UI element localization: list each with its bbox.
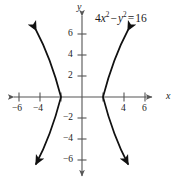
x-tick-label-pos4: 4: [121, 104, 126, 114]
hyperbola-graph-figure: 4x2−y2=16 y x −6 −4 4 6 6 4 2 −2 −4 −6: [0, 0, 178, 181]
y-tick-label-neg6: −6: [63, 155, 73, 165]
y-axis: [78, 16, 87, 176]
x-tick-label-neg4: −4: [33, 104, 43, 114]
equation-annotation: 4x2−y2=16: [95, 13, 147, 25]
equation-constant: 16: [135, 12, 147, 24]
y-tick-label-pos2: 2: [68, 71, 73, 81]
equation-minus: −: [109, 12, 118, 24]
y-tick-label-neg4: −4: [63, 134, 73, 144]
x-axis-label: x: [166, 91, 170, 101]
y-axis-label: y: [77, 2, 81, 12]
x-axis: [14, 93, 152, 102]
x-tick-label-neg6: −6: [12, 104, 22, 114]
y-tick-label-neg2: −2: [63, 113, 73, 123]
equation-equals: =: [127, 12, 136, 24]
x-tick-label-pos6: 6: [142, 104, 147, 114]
plot-canvas: [0, 0, 178, 181]
y-tick-label-pos6: 6: [68, 29, 73, 39]
y-tick-label-pos4: 4: [68, 50, 73, 60]
